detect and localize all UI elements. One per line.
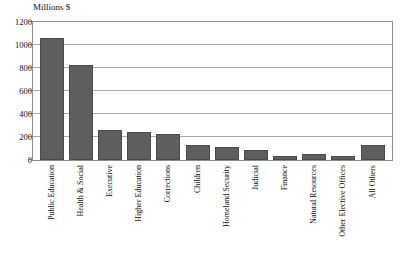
bar-slot — [329, 22, 358, 160]
x-axis-labels: Public EducationHealth & SocialExecutive… — [33, 163, 392, 261]
x-label-slot: Children — [183, 163, 212, 261]
y-axis-tick-label: 200 — [4, 133, 32, 142]
bar[interactable] — [215, 147, 239, 160]
bar[interactable] — [69, 65, 93, 160]
y-axis: 020040060080010001200 — [0, 21, 32, 161]
x-axis-tick-label: Executive — [106, 165, 114, 197]
bar-slot — [300, 22, 329, 160]
bar-slot — [125, 22, 154, 160]
bar[interactable] — [273, 156, 297, 160]
x-axis-tick-label: Children — [194, 165, 202, 193]
bar[interactable] — [127, 132, 151, 160]
x-label-slot: Homeland Security — [212, 163, 241, 261]
bar[interactable] — [98, 130, 122, 160]
bars-container — [33, 22, 392, 160]
bar[interactable] — [361, 145, 385, 160]
bar-slot — [95, 22, 124, 160]
bar-slot — [66, 22, 95, 160]
x-axis-tick-label: Health & Social — [77, 165, 85, 217]
x-axis-tick-label: Judicial — [252, 165, 260, 190]
x-axis-tick-label: Corrections — [164, 165, 172, 202]
x-label-slot: Corrections — [154, 163, 183, 261]
x-label-slot: Other Elective Offices — [329, 163, 358, 261]
bar-slot — [37, 22, 66, 160]
x-label-slot: Executive — [95, 163, 124, 261]
x-label-slot: Finance — [271, 163, 300, 261]
x-label-slot: Higher Education — [125, 163, 154, 261]
bar[interactable] — [302, 154, 326, 160]
bar-chart: Millions $ 020040060080010001200 Public … — [0, 0, 401, 261]
bar[interactable] — [156, 134, 180, 160]
y-axis-tick-label: 1000 — [4, 41, 32, 50]
bar-slot — [183, 22, 212, 160]
x-label-slot: Health & Social — [66, 163, 95, 261]
x-label-slot: Judicial — [241, 163, 270, 261]
bar-slot — [241, 22, 270, 160]
y-axis-tick-label: 800 — [4, 64, 32, 73]
x-axis-tick-label: Homeland Security — [223, 165, 231, 227]
bar-slot — [212, 22, 241, 160]
bar[interactable] — [40, 38, 64, 160]
x-axis-tick-label: Higher Education — [135, 165, 143, 222]
x-axis-tick-label: All Others — [369, 165, 377, 199]
chart-axis-title: Millions $ — [33, 2, 70, 13]
x-label-slot: All Others — [358, 163, 387, 261]
bar[interactable] — [331, 156, 355, 160]
y-axis-tick-label: 600 — [4, 87, 32, 96]
x-axis-tick-label: Public Education — [48, 165, 56, 220]
bar[interactable] — [186, 145, 210, 160]
y-axis-tick-label: 400 — [4, 110, 32, 119]
bar[interactable] — [244, 150, 268, 160]
x-axis-tick-label: Other Elective Offices — [339, 165, 347, 237]
x-label-slot: Public Education — [37, 163, 66, 261]
bar-slot — [271, 22, 300, 160]
bar-slot — [358, 22, 387, 160]
bar-slot — [154, 22, 183, 160]
x-axis-tick-label: Finance — [281, 165, 289, 190]
x-label-slot: Natural Resources — [300, 163, 329, 261]
y-axis-tick-label: 1200 — [4, 18, 32, 27]
x-axis-tick-label: Natural Resources — [310, 165, 318, 224]
y-axis-tick-label: 0 — [4, 156, 32, 165]
